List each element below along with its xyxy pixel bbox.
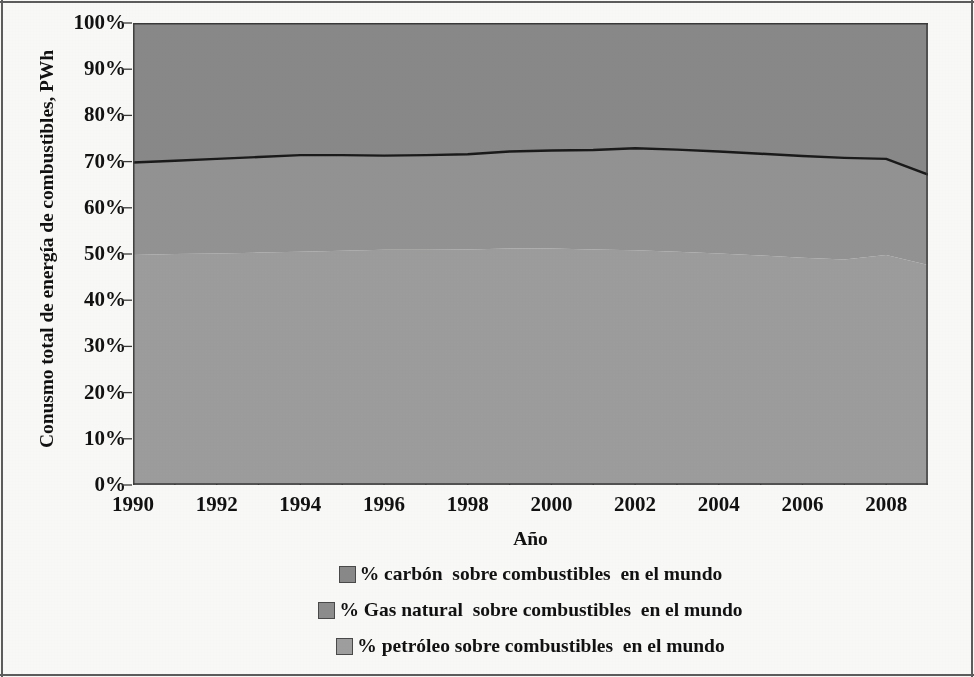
page-edge-top [0, 1, 974, 3]
legend-swatch-gas-natural [318, 602, 335, 619]
y-tick-label: 60% [42, 197, 126, 218]
legend-swatch-petroleo [336, 638, 353, 655]
x-tick-label: 1992 [196, 492, 238, 517]
y-tick-label: 90% [42, 58, 126, 79]
x-tick-label: 1998 [447, 492, 489, 517]
page-edge-bottom [0, 674, 974, 676]
x-tick-label: 2004 [698, 492, 740, 517]
area-petroleo [133, 248, 928, 485]
y-tick-label: 10% [42, 428, 126, 449]
legend-swatch-carbon [339, 566, 356, 583]
x-tick-label: 1990 [112, 492, 154, 517]
y-axis-tick-labels: 100%90%80%70%60%50%40%30%20%10%0% [38, 0, 126, 677]
x-axis-title: Año [133, 528, 928, 550]
legend-item[interactable]: % Gas natural sobre combustibles en el m… [133, 592, 928, 628]
legend-label-carbon: % carbón sobre combustibles en el mundo [360, 563, 723, 585]
chart-legend: % carbón sobre combustibles en el mundo … [133, 556, 928, 664]
x-tick-label: 2008 [865, 492, 907, 517]
area-bands [133, 23, 928, 485]
legend-item[interactable]: % petróleo sobre combustibles en el mund… [133, 628, 928, 664]
y-tick-label: 70% [42, 151, 126, 172]
x-tick-label: 2006 [781, 492, 823, 517]
y-tick-label: 20% [42, 382, 126, 403]
page-edge-left [1, 0, 3, 677]
x-tick-label: 2002 [614, 492, 656, 517]
y-tick-label: 100% [42, 12, 126, 33]
y-tick-label: 80% [42, 104, 126, 125]
y-tick-label: 40% [42, 289, 126, 310]
x-tick-label: 1994 [279, 492, 321, 517]
x-axis-tick-labels: 1990199219941996199820002002200420062008 [133, 492, 928, 522]
legend-label-gas-natural: % Gas natural sobre combustibles en el m… [339, 599, 742, 621]
area-gas-natural [133, 148, 928, 265]
chart-figure: Conusmo total de energía de combustibles… [0, 0, 974, 677]
legend-label-petroleo: % petróleo sobre combustibles en el mund… [357, 635, 724, 657]
y-tick-label: 30% [42, 335, 126, 356]
y-tick-label: 50% [42, 243, 126, 264]
legend-item[interactable]: % carbón sobre combustibles en el mundo [133, 556, 928, 592]
x-tick-label: 2000 [530, 492, 572, 517]
stacked-area-plot [133, 23, 928, 485]
page-edge-right [971, 0, 973, 677]
x-tick-label: 1996 [363, 492, 405, 517]
plot-area [133, 23, 928, 485]
